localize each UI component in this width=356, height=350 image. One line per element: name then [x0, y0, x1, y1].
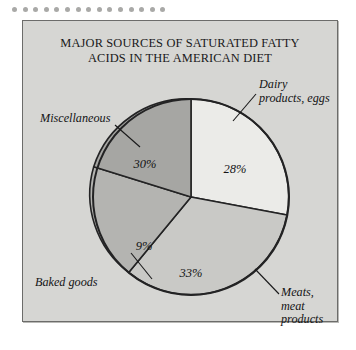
- decorative-dot: [129, 7, 134, 12]
- decorative-dot: [33, 7, 38, 12]
- decorative-dot: [54, 7, 59, 12]
- decorative-dot: [97, 7, 102, 12]
- decorative-dot: [23, 7, 28, 12]
- decorative-dot: [12, 7, 17, 12]
- decorative-dot-row: [12, 4, 182, 14]
- pie-value-label-meats: 33%: [180, 266, 203, 281]
- leader-line-meats: [255, 269, 279, 294]
- decorative-dot: [118, 7, 123, 12]
- pie-value-label-miscellaneous: 30%: [134, 157, 157, 172]
- pie-slice-dairy-products-eggs[interactable]: [191, 99, 289, 215]
- pie-value-label-dairy: 28%: [224, 162, 247, 177]
- pie-category-label-dairy: Dairy products, eggs: [259, 78, 330, 105]
- pie-value-label-baked-goods: 9%: [136, 239, 153, 254]
- chart-frame: MAJOR SOURCES OF SATURATED FATTY ACIDS I…: [22, 20, 338, 322]
- decorative-dot: [150, 7, 155, 12]
- pie-category-label-meats: Meats, meat products: [281, 286, 339, 327]
- pie-category-label-miscellaneous: Miscellaneous: [40, 112, 110, 126]
- decorative-dot: [65, 7, 70, 12]
- decorative-dot: [76, 7, 81, 12]
- decorative-dot: [160, 7, 165, 12]
- decorative-dot: [86, 7, 91, 12]
- figure-page: MAJOR SOURCES OF SATURATED FATTY ACIDS I…: [0, 0, 356, 350]
- decorative-dot: [44, 7, 49, 12]
- decorative-dot: [139, 7, 144, 12]
- decorative-dot: [107, 7, 112, 12]
- pie-chart: 33% 28% 9% 30% Dairy products, eggs Meat…: [23, 21, 339, 323]
- pie-category-label-baked-goods: Baked goods: [35, 276, 98, 290]
